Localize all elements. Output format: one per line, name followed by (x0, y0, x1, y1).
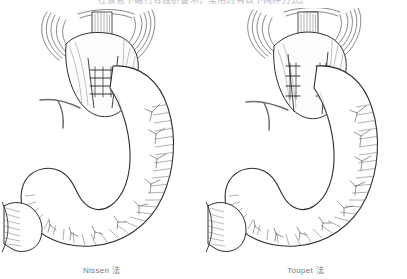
figure-toupet (204, 8, 407, 256)
figure-root: 在食管下端行胃底折叠术，常用的有以下两种方式。 (0, 0, 407, 279)
vagus-nerve-branch (40, 99, 80, 128)
caption-nissen: Nissen 法 (0, 264, 203, 275)
vagus-nerve-branch (246, 101, 288, 130)
figure-nissen (0, 8, 203, 256)
caption-toupet: Toupet 法 (204, 264, 407, 275)
cropped-header-text: 在食管下端行胃底折叠术，常用的有以下两种方式。 (0, 0, 407, 7)
toupet-illustration (204, 8, 407, 256)
cropped-header-text-label: 在食管下端行胃底折叠术，常用的有以下两种方式。 (0, 0, 407, 7)
nissen-illustration (0, 8, 203, 256)
